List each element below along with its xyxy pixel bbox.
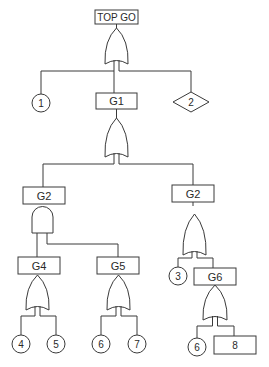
or-gate-icon bbox=[203, 285, 227, 320]
event-label: 2 bbox=[188, 97, 194, 108]
top-event: TOP GO bbox=[95, 10, 138, 24]
event-label: 8 bbox=[232, 340, 238, 351]
event-label: 6 bbox=[194, 342, 200, 353]
intermediate-event-8: 8 bbox=[214, 336, 256, 354]
basic-event-3: 3 bbox=[169, 267, 187, 285]
gate-label: G1 bbox=[109, 95, 124, 107]
gate-label: G5 bbox=[111, 260, 126, 272]
or-gate-icon bbox=[105, 28, 128, 64]
gate-g2-left: G2 bbox=[23, 187, 65, 204]
gate-g5: G5 bbox=[97, 257, 139, 274]
undeveloped-event-2: 2 bbox=[173, 92, 209, 112]
basic-event-7: 7 bbox=[128, 335, 146, 353]
event-label: 6 bbox=[98, 339, 104, 350]
or-gate-icon bbox=[105, 118, 128, 157]
gate-g6: G6 bbox=[194, 268, 236, 285]
gate-g2-right: G2 bbox=[172, 185, 214, 202]
or-gate-icon bbox=[107, 275, 130, 310]
gate-label: G2 bbox=[186, 188, 201, 200]
gate-g1: G1 bbox=[96, 93, 137, 109]
event-label: 1 bbox=[38, 98, 44, 109]
basic-event-6a: 6 bbox=[92, 335, 110, 353]
and-gate-icon bbox=[32, 207, 53, 233]
event-label: 5 bbox=[53, 339, 59, 350]
basic-event-4: 4 bbox=[12, 335, 30, 353]
gate-label: G6 bbox=[208, 271, 223, 283]
or-gate-icon bbox=[183, 214, 206, 255]
fault-tree-diagram: TOP GO 1 2 G1 G2 G4 bbox=[0, 0, 269, 367]
gate-label: G2 bbox=[37, 190, 52, 202]
or-gate-icon bbox=[26, 275, 49, 310]
gate-g4: G4 bbox=[18, 257, 60, 274]
event-label: 7 bbox=[134, 339, 140, 350]
event-label: 4 bbox=[18, 339, 24, 350]
gate-label: G4 bbox=[32, 260, 47, 272]
basic-event-6b: 6 bbox=[188, 338, 206, 356]
event-label: 3 bbox=[175, 271, 181, 282]
top-event-label: TOP GO bbox=[97, 12, 136, 23]
basic-event-5: 5 bbox=[47, 335, 65, 353]
basic-event-1: 1 bbox=[32, 94, 50, 112]
